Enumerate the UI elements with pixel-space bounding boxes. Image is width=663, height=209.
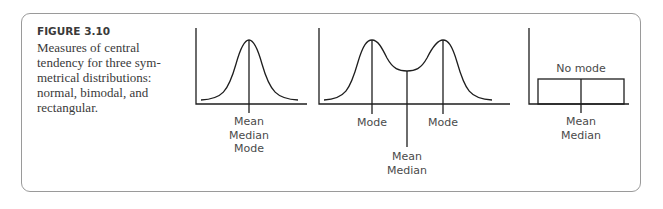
label-median: Median [387,164,427,178]
normal-center-label: Mean Median Mode [229,115,269,156]
rectangular-top-label: No mode [556,62,606,76]
label-mean: Mean [561,115,601,129]
bimodal-curve [324,40,492,100]
label-mode: Mode [428,116,458,130]
label-mean: Mean [229,115,269,129]
distribution-diagrams [0,0,663,209]
bimodal-distribution-panel [319,28,510,147]
rectangular-center-label: Mean Median [561,115,601,142]
label-mode: Mode [229,142,269,156]
bimodal-right-mode-label: Mode [428,116,458,130]
label-no-mode: No mode [556,62,606,76]
label-median: Median [229,129,269,143]
bimodal-axes [319,28,510,104]
bimodal-center-label: Mean Median [387,150,427,177]
label-mode: Mode [357,116,387,130]
normal-axes [196,28,307,104]
label-mean: Mean [387,150,427,164]
bimodal-left-mode-label: Mode [357,116,387,130]
label-median: Median [561,129,601,143]
normal-distribution-panel [196,28,307,113]
